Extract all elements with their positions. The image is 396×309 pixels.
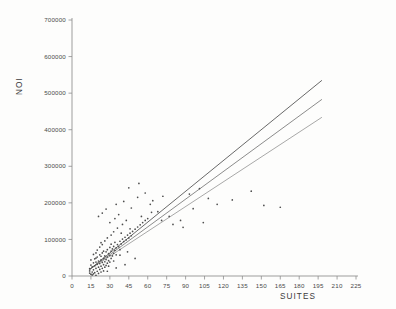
data-point xyxy=(93,269,95,271)
data-point xyxy=(149,203,151,205)
data-point xyxy=(104,240,106,242)
data-point xyxy=(114,218,116,220)
data-point xyxy=(147,218,149,220)
data-point xyxy=(127,234,129,236)
data-point xyxy=(122,238,124,240)
data-point xyxy=(129,228,131,230)
data-point xyxy=(101,244,103,246)
scatter-points xyxy=(89,183,281,277)
x-tick-label: 180 xyxy=(294,282,305,289)
data-point xyxy=(207,198,209,200)
x-tick-label: 225 xyxy=(351,282,362,289)
data-point xyxy=(115,267,117,269)
data-point xyxy=(99,254,101,256)
data-point xyxy=(192,208,194,210)
data-point xyxy=(108,260,110,262)
x-tick-label: 165 xyxy=(275,282,286,289)
data-point xyxy=(115,203,117,205)
data-point xyxy=(127,251,129,253)
x-axis: 0153045607590105120135150165180195210225 xyxy=(70,276,362,289)
y-tick-label: 500000 xyxy=(44,89,66,96)
data-point xyxy=(110,258,112,260)
data-point xyxy=(124,236,126,238)
x-tick-label: 60 xyxy=(144,282,152,289)
data-point xyxy=(263,205,265,207)
x-tick-label: 210 xyxy=(332,282,343,289)
y-tick-label: 300000 xyxy=(44,162,66,169)
regression-line-fit-middle xyxy=(90,99,322,269)
data-point xyxy=(96,249,98,251)
x-tick-label: 30 xyxy=(106,282,114,289)
x-tick-label: 15 xyxy=(87,282,95,289)
data-point xyxy=(95,267,97,269)
data-point xyxy=(144,220,146,222)
data-point xyxy=(113,246,115,248)
data-point xyxy=(106,249,108,251)
data-point xyxy=(180,220,182,222)
data-point xyxy=(99,246,101,248)
x-tick-label: 105 xyxy=(199,282,210,289)
data-point xyxy=(100,271,102,273)
data-point xyxy=(105,208,107,210)
data-point xyxy=(95,274,97,276)
x-tick-label: 150 xyxy=(256,282,267,289)
data-point xyxy=(189,193,191,195)
data-point xyxy=(134,258,136,260)
y-axis-title: NOI xyxy=(15,77,24,95)
data-point xyxy=(132,231,134,233)
data-point xyxy=(115,254,117,256)
regression-lines xyxy=(90,80,322,269)
data-point xyxy=(93,254,95,256)
data-point xyxy=(101,267,103,269)
data-point xyxy=(119,240,121,242)
y-tick-label: 0 xyxy=(62,272,66,279)
data-point xyxy=(90,264,92,266)
data-point xyxy=(103,264,105,266)
data-point xyxy=(98,216,100,218)
data-point xyxy=(95,252,97,254)
data-point xyxy=(105,251,107,253)
data-point xyxy=(110,234,112,236)
data-point xyxy=(128,187,130,189)
data-point xyxy=(101,212,103,214)
data-point xyxy=(202,222,204,224)
data-point xyxy=(90,259,92,261)
data-point xyxy=(106,237,108,239)
data-point xyxy=(104,261,106,263)
data-point xyxy=(112,248,114,250)
x-tick-label: 0 xyxy=(70,282,74,289)
data-point xyxy=(91,271,93,273)
data-point xyxy=(105,265,107,267)
data-point xyxy=(134,228,136,230)
data-point xyxy=(120,232,122,234)
data-point xyxy=(123,201,125,203)
data-point xyxy=(103,250,105,252)
data-point xyxy=(93,262,95,264)
data-point xyxy=(124,264,126,266)
data-point xyxy=(98,266,100,268)
regression-line-fit-lower xyxy=(90,117,322,269)
data-point xyxy=(114,242,116,244)
y-tick-label: 400000 xyxy=(44,126,66,133)
data-point xyxy=(94,272,96,274)
x-tick-label: 195 xyxy=(313,282,324,289)
data-point xyxy=(231,199,233,201)
data-point xyxy=(117,244,119,246)
data-point xyxy=(182,227,184,229)
data-point xyxy=(109,222,111,224)
data-point xyxy=(162,195,164,197)
data-point xyxy=(113,231,115,233)
data-point xyxy=(103,270,105,272)
data-point xyxy=(108,265,110,267)
data-point xyxy=(129,232,131,234)
data-point xyxy=(142,222,144,224)
data-point xyxy=(125,220,127,222)
y-tick-label: 700000 xyxy=(44,16,66,23)
data-point xyxy=(113,260,115,262)
x-axis-title: SUITES xyxy=(280,292,316,301)
data-point xyxy=(98,273,100,275)
data-point xyxy=(104,266,106,268)
data-point xyxy=(144,192,146,194)
data-point xyxy=(95,257,97,259)
data-point xyxy=(157,211,159,213)
